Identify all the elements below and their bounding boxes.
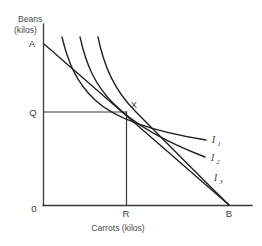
chart-canvas: Beans (kilos) Carrots (kilos) A Q 0 R B … (0, 0, 262, 246)
point-label-r: R (123, 208, 130, 219)
curve-label-i3-base: I (213, 173, 218, 183)
point-label-x: X (131, 99, 138, 110)
guide-lines-group (44, 112, 127, 206)
origin-label: 0 (31, 203, 36, 214)
point-label-a: A (29, 38, 36, 49)
curve-label-i3-subscript: 3 (219, 178, 223, 185)
indifference-curve-i2 (80, 37, 205, 157)
curve-label-i2-subscript: 2 (217, 158, 221, 165)
curve-label-i3: I 3 (213, 173, 223, 185)
indifference-curve-figure: Beans (kilos) Carrots (kilos) A Q 0 R B … (0, 0, 262, 246)
curve-label-i1-base: I (211, 135, 216, 145)
y-axis-label-line2: (kilos) (14, 25, 37, 35)
indifference-curve-i3 (98, 37, 229, 205)
point-label-b: B (226, 208, 232, 219)
point-label-q: Q (29, 107, 36, 118)
curve-label-i1: I 1 (211, 135, 221, 147)
curve-label-i1-subscript: 1 (218, 140, 221, 147)
indifference-curves-group (62, 37, 229, 205)
x-axis-label: Carrots (kilos) (91, 223, 145, 233)
curve-label-i2: I 2 (210, 153, 221, 165)
y-axis-label-line1: Beans (18, 14, 42, 24)
curve-label-i2-base: I (210, 153, 215, 163)
